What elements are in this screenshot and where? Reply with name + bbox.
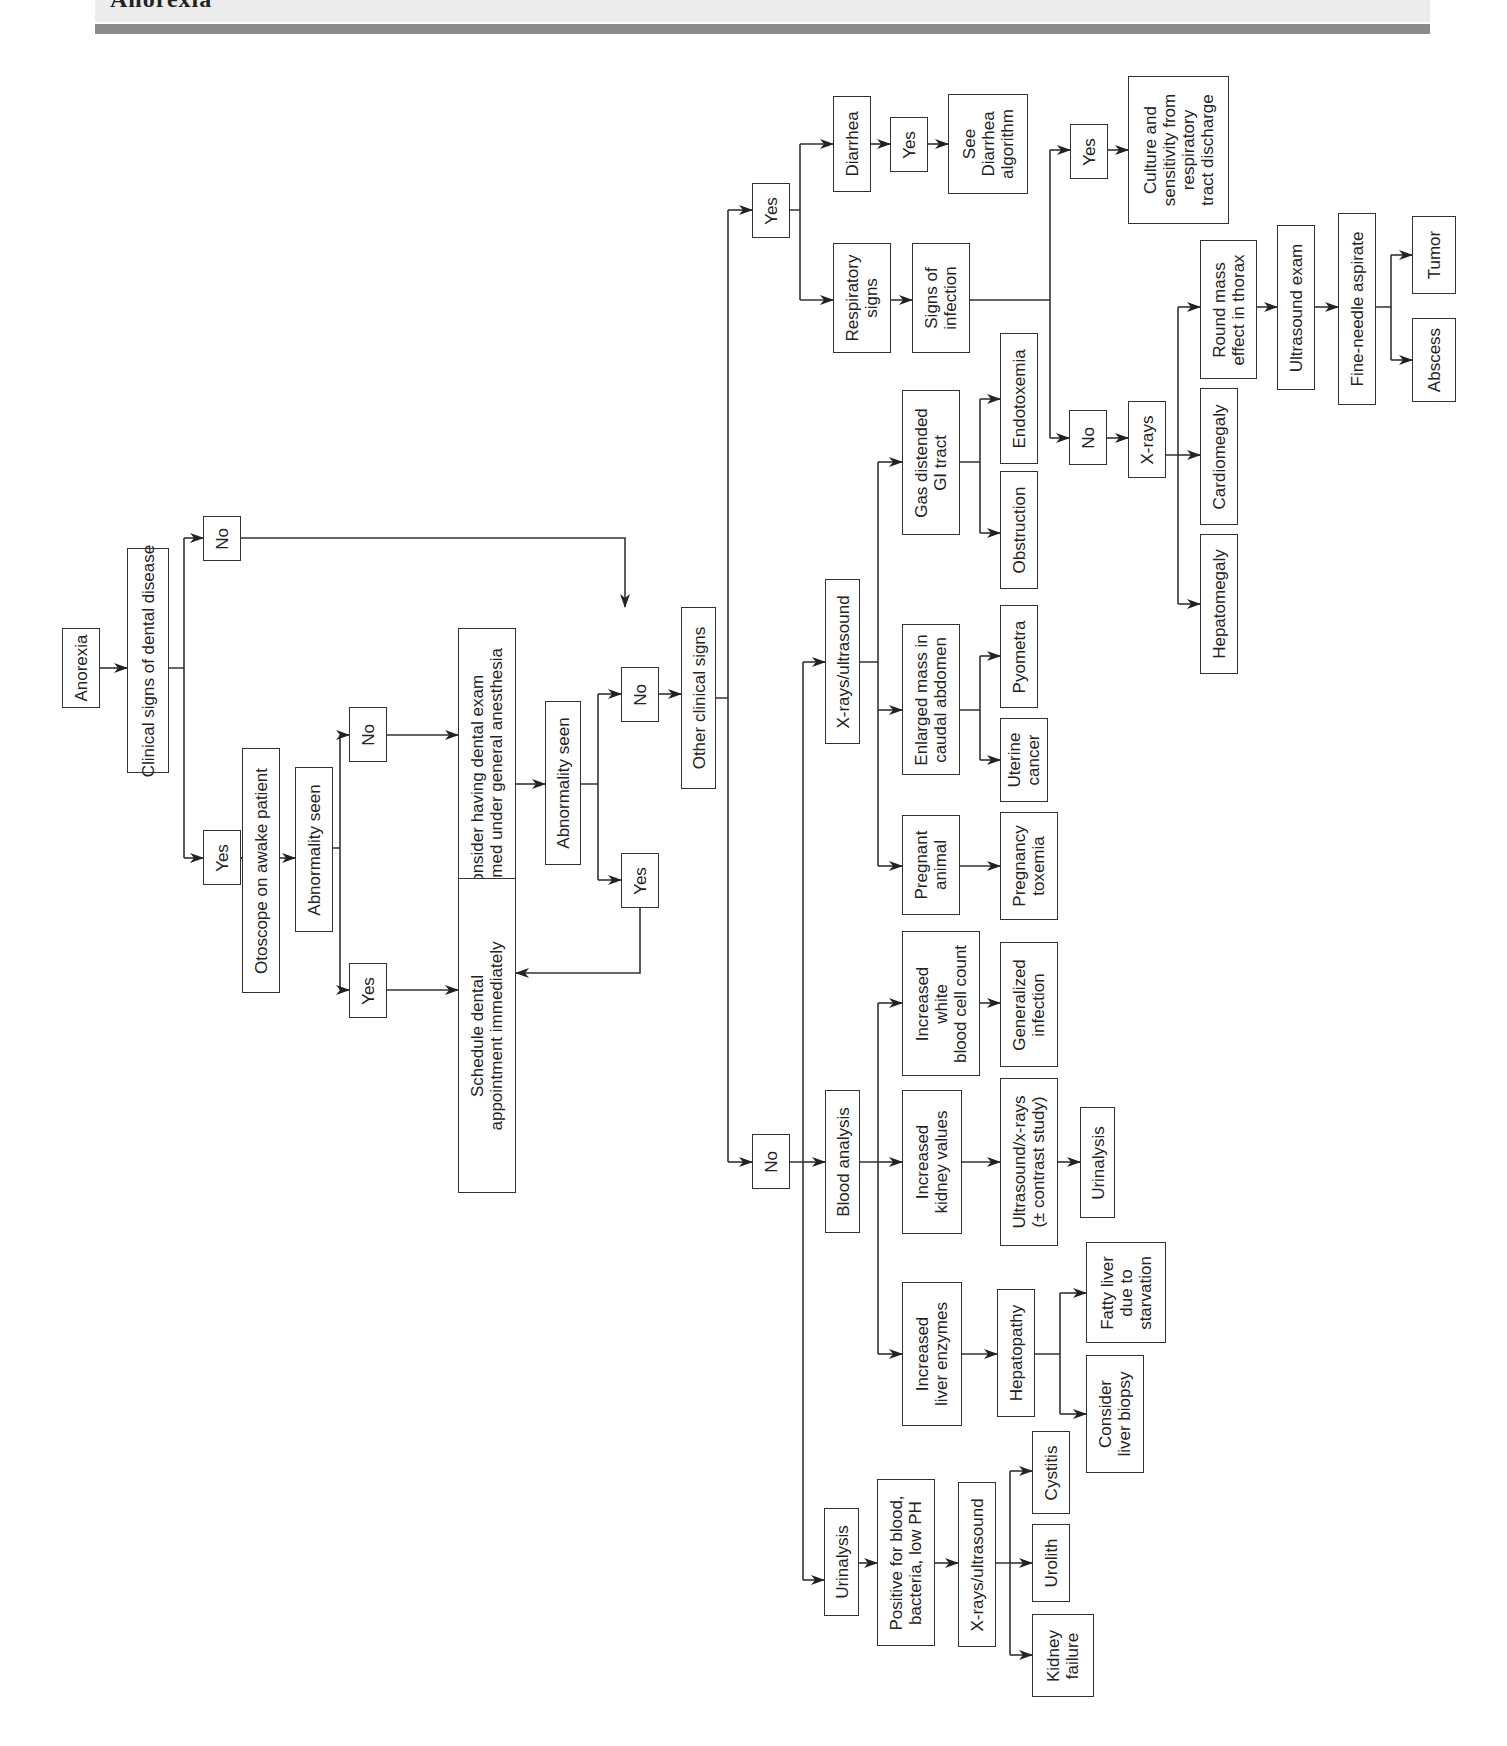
node-label: Hepatopathy — [1007, 1305, 1026, 1401]
node-cardiomegaly: Cardiomegaly — [1200, 388, 1238, 525]
node-increased-kidney: Increased kidney values — [902, 1090, 962, 1234]
node-blood-analysis: Blood analysis — [825, 1090, 860, 1233]
node-hepatopathy: Hepatopathy — [997, 1289, 1035, 1417]
node-label: Ultrasound/x-rays (± contrast study) — [1010, 1095, 1048, 1228]
node-gas-distended-gi: Gas distended GI tract — [902, 390, 960, 535]
node-label: Yes — [359, 977, 378, 1005]
node-label: Yes — [213, 844, 232, 872]
node-abnormality-2: Abnormality seen — [545, 701, 581, 865]
node-label: Signs of infection — [922, 266, 960, 329]
node-label: Otoscope on awake patient — [252, 767, 271, 973]
node-anorexia: Anorexia — [62, 628, 100, 708]
node-diarrhea: Diarrhea — [833, 96, 871, 192]
node-xrays-ultrasound-urinary: X-rays/ultrasound — [958, 1482, 996, 1647]
node-label: X-rays/ultrasound — [833, 595, 852, 728]
node-label: No — [631, 684, 650, 706]
node-other-clinical-signs: Other clinical signs — [681, 607, 716, 789]
node-label: Fine-needle aspirate — [1348, 232, 1367, 387]
node-obstruction: Obstruction — [1000, 471, 1038, 589]
node-label: Pyometra — [1010, 620, 1029, 693]
node-label: Generalized infection — [1010, 959, 1048, 1051]
node-urolith: Urolith — [1032, 1524, 1070, 1602]
node-label: Pregnant animal — [912, 831, 950, 900]
node-respiratory-signs: Respiratory signs — [833, 243, 891, 353]
node-label: No — [1079, 427, 1098, 449]
node-label: Consider liver biopsy — [1096, 1371, 1134, 1456]
node-label: No — [762, 1151, 781, 1173]
node-endotoxemia: Endotoxemia — [1000, 333, 1038, 464]
node-liver-biopsy: Consider liver biopsy — [1086, 1355, 1144, 1473]
node-label: See Diarrhea algorithm — [960, 109, 1017, 179]
node-see-diarrhea-algorithm: See Diarrhea algorithm — [948, 94, 1028, 194]
node-label: Cystitis — [1042, 1445, 1061, 1500]
node-pyometra: Pyometra — [1000, 605, 1038, 708]
node-label: Pregnancy toxemia — [1010, 825, 1048, 906]
node-xrays-thorax: X-rays — [1128, 401, 1166, 478]
node-no-abnormality-1: No — [349, 707, 387, 762]
node-label: Uterine cancer — [1005, 733, 1043, 788]
node-label: Gas distended GI tract — [912, 408, 950, 518]
node-label: Yes — [631, 867, 650, 895]
node-kidney-failure: Kidney failure — [1032, 1614, 1094, 1697]
node-label: Increased kidney values — [913, 1110, 951, 1213]
node-label: Endotoxemia — [1010, 349, 1029, 448]
node-xrays-ultrasound-abdomen: X-rays/ultrasound — [825, 579, 860, 744]
node-no-abnormality-2: No — [621, 667, 659, 722]
node-yes-diarrhea: Yes — [890, 117, 928, 172]
node-increased-wbc: Increased white blood cell count — [902, 931, 980, 1076]
node-label: No — [213, 528, 232, 550]
node-label: Schedule dental appointment immediately — [468, 941, 506, 1130]
node-label: Abnormality seen — [305, 784, 324, 915]
node-fine-needle-aspirate: Fine-needle aspirate — [1338, 213, 1376, 405]
node-hepatomegaly: Hepatomegaly — [1200, 534, 1238, 674]
node-pregnant-animal: Pregnant animal — [902, 815, 960, 915]
node-otoscope: Otoscope on awake patient — [242, 748, 280, 993]
node-round-mass: Round mass effect in thorax — [1200, 240, 1257, 379]
node-label: Diarrhea — [843, 111, 862, 176]
node-yes-dental: Yes — [203, 830, 241, 885]
node-label: Cardiomegaly — [1210, 404, 1229, 509]
node-label: Tumor — [1425, 231, 1444, 280]
node-label: Positive for blood, bacteria, low PH — [887, 1495, 925, 1630]
node-cystitis: Cystitis — [1032, 1431, 1070, 1514]
node-urinalysis: Urinalysis — [824, 1508, 859, 1616]
node-tumor: Tumor — [1412, 216, 1456, 294]
node-label: Yes — [762, 197, 781, 225]
node-label: Ultrasound exam — [1287, 243, 1306, 372]
node-label: Clinical signs of dental disease — [139, 544, 158, 776]
node-ultrasound-xrays-contrast: Ultrasound/x-rays (± contrast study) — [1000, 1078, 1058, 1246]
node-label: Yes — [1080, 138, 1099, 166]
node-label: Anorexia — [72, 634, 91, 701]
node-clinical-signs-dental: Clinical signs of dental disease — [127, 548, 169, 773]
node-label: Hepatomegaly — [1210, 549, 1229, 659]
node-label: No — [359, 724, 378, 746]
node-label: Increased white blood cell count — [913, 944, 970, 1062]
node-urinalysis-kidney: Urinalysis — [1080, 1107, 1115, 1218]
node-increased-liver: Increased liver enzymes — [902, 1282, 962, 1426]
node-positive-blood-bacteria: Positive for blood, bacteria, low PH — [877, 1479, 935, 1646]
node-label: Yes — [900, 131, 919, 159]
node-schedule-appointment: Schedule dental appointment immediately — [458, 878, 516, 1193]
node-label: Urinalysis — [1088, 1126, 1107, 1200]
node-no-infection: No — [1069, 410, 1107, 465]
node-label: Fatty liver due to starvation — [1098, 1256, 1155, 1330]
node-label: Culture and sensitivity from respiratory… — [1141, 94, 1217, 206]
node-label: Obstruction — [1010, 487, 1029, 574]
node-ultrasound-exam: Ultrasound exam — [1277, 225, 1315, 390]
node-label: Abnormality seen — [554, 717, 573, 848]
node-label: Other clinical signs — [689, 627, 708, 770]
node-label: Abscess — [1425, 328, 1444, 392]
node-pregnancy-toxemia: Pregnancy toxemia — [1000, 812, 1058, 920]
node-label: Enlarged mass in caudal abdomen — [912, 634, 950, 765]
node-fatty-liver: Fatty liver due to starvation — [1086, 1242, 1166, 1343]
node-label: Increased liver enzymes — [913, 1302, 951, 1406]
node-label: X-rays — [1138, 415, 1157, 464]
node-label: Kidney failure — [1044, 1630, 1082, 1682]
node-abnormality-1: Abnormality seen — [295, 767, 333, 932]
node-no-other: No — [752, 1134, 790, 1189]
node-yes-other: Yes — [752, 183, 790, 238]
node-yes-abnormality-1: Yes — [349, 963, 387, 1018]
node-enlarged-mass: Enlarged mass in caudal abdomen — [902, 624, 960, 775]
node-no-dental: No — [203, 516, 241, 561]
node-label: Respiratory signs — [843, 255, 881, 342]
